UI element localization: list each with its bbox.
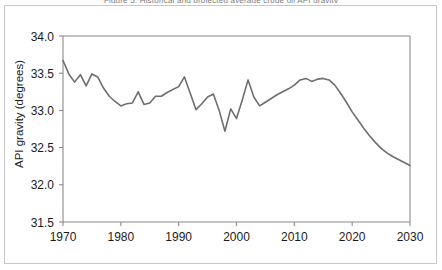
chart-figure: Figure 5. Historical and projected avera…	[0, 0, 442, 270]
x-tick-label: 2010	[281, 230, 308, 244]
y-tick-label: 33.5	[31, 67, 55, 81]
data-series-line	[63, 61, 410, 166]
y-tick-label: 33.0	[31, 104, 55, 118]
x-tick-label: 1970	[50, 230, 77, 244]
y-tick-group: 31.532.032.533.033.534.0	[31, 30, 63, 230]
x-tick-label: 2030	[397, 230, 424, 244]
x-tick-label: 2000	[223, 230, 250, 244]
y-tick-label: 34.0	[31, 30, 55, 44]
axis-group	[63, 36, 410, 222]
line-chart-plot: 31.532.032.533.033.534.0 197019801990200…	[0, 0, 442, 270]
y-tick-label: 31.5	[31, 216, 55, 230]
x-tick-label: 2020	[339, 230, 366, 244]
x-tick-label: 1980	[107, 230, 134, 244]
x-tick-group: 1970198019902000201020202030	[50, 222, 424, 244]
y-tick-label: 32.0	[31, 178, 55, 192]
x-tick-label: 1990	[165, 230, 192, 244]
y-tick-label: 32.5	[31, 141, 55, 155]
